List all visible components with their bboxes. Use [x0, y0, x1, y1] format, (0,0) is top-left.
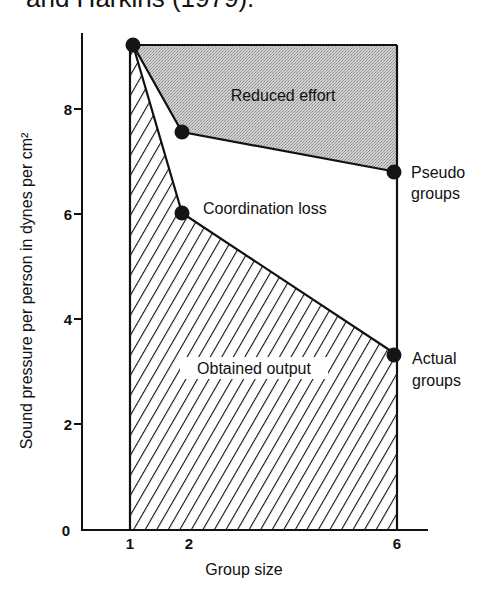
y-tick-labels: 0 2 4 6 8	[62, 101, 73, 539]
y-axis-title: Sound pressure per person in dynes per c…	[18, 132, 35, 449]
obtained-output-label: Obtained output	[197, 360, 311, 377]
x-axis-title: Group size	[205, 561, 282, 578]
chart: 0 2 4 6 8 1 2 6 Group size Sound pressur…	[0, 0, 496, 597]
y-tick-label-8: 8	[64, 101, 72, 118]
point-actual-6	[387, 348, 402, 363]
point-pseudo-2	[175, 125, 190, 140]
reduced-effort-label: Reduced effort	[231, 87, 336, 104]
actual-groups-label-line2: groups	[412, 372, 461, 389]
point-pseudo-6	[387, 165, 402, 180]
x-tick-label-1: 1	[126, 535, 134, 552]
y-tick-label-0: 0	[62, 522, 70, 539]
plot-regions	[130, 45, 397, 530]
reduced-effort-region	[133, 45, 397, 172]
y-tick-label-6: 6	[64, 206, 72, 223]
coordination-loss-label: Coordination loss	[203, 200, 327, 217]
point-individual-1	[126, 38, 141, 53]
pseudo-groups-label-line2: groups	[411, 185, 460, 202]
x-tick-label-6: 6	[393, 535, 401, 552]
y-tick-label-4: 4	[64, 311, 73, 328]
point-actual-2	[175, 206, 190, 221]
actual-groups-label-line1: Actual	[412, 350, 456, 367]
y-tick-label-2: 2	[64, 416, 72, 433]
pseudo-groups-label-line1: Pseudo	[411, 164, 465, 181]
x-tick-label-2: 2	[185, 535, 193, 552]
x-tick-labels: 1 2 6	[126, 535, 401, 552]
